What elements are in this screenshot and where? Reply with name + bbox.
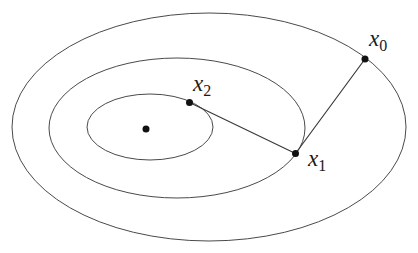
point-x2-label: x2	[192, 71, 211, 99]
point-x0-dot	[362, 56, 369, 63]
outer-level-curve	[12, 13, 406, 241]
level-set-diagram: x0x1x2	[0, 0, 418, 253]
point-x1-dot	[292, 150, 299, 157]
diagram-canvas: x0x1x2	[0, 0, 418, 253]
point-x1-label: x1	[307, 146, 326, 174]
step-x0-x1	[296, 59, 366, 154]
inner-level-curve	[87, 94, 213, 160]
point-x2-dot	[186, 99, 193, 106]
point-center-dot	[143, 126, 150, 133]
step-x1-x2	[190, 103, 296, 154]
point-x0-label: x0	[368, 26, 387, 54]
